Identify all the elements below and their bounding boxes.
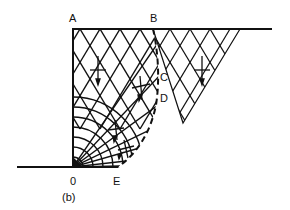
point-label-A: A xyxy=(69,13,76,24)
point-label-D: D xyxy=(160,93,168,104)
boundary-lines xyxy=(17,29,272,167)
stress-star-left xyxy=(90,56,106,85)
stress-star-right xyxy=(194,56,210,85)
point-label-B: B xyxy=(150,13,157,24)
figure-caption: (b) xyxy=(62,192,75,203)
slip-line-diagram xyxy=(0,0,290,210)
point-label-C: C xyxy=(160,72,168,83)
point-label-O: 0 xyxy=(70,176,76,187)
point-label-E: E xyxy=(113,176,120,187)
